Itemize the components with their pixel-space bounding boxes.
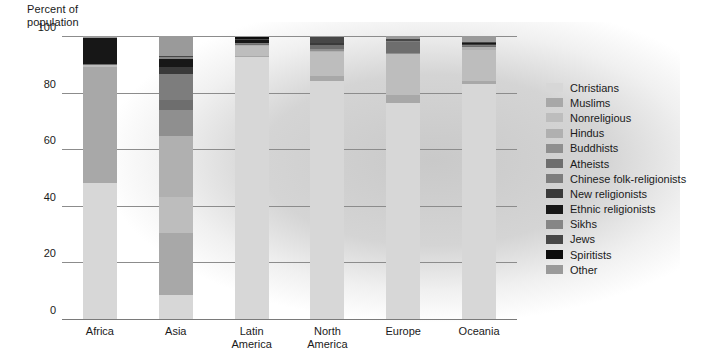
legend-label: Chinese folk-religionists bbox=[570, 173, 686, 185]
legend-item: Atheists bbox=[546, 156, 706, 171]
bar-segment bbox=[462, 50, 496, 81]
bar-latin-america bbox=[235, 36, 269, 319]
y-tick-label: 60 bbox=[26, 134, 56, 146]
bar-segment bbox=[386, 42, 420, 53]
bar-segment bbox=[159, 67, 193, 74]
legend-item: Buddhists bbox=[546, 141, 706, 156]
x-tick-label: North America bbox=[287, 325, 367, 348]
legend-item: Other bbox=[546, 262, 706, 277]
gridline bbox=[62, 319, 517, 320]
x-tick-label: Latin America bbox=[212, 325, 292, 348]
legend-swatch bbox=[546, 174, 563, 183]
legend-item: Ethnic religionists bbox=[546, 202, 706, 217]
legend-swatch bbox=[546, 189, 563, 198]
legend-swatch bbox=[546, 144, 563, 153]
legend-label: Jews bbox=[570, 233, 595, 245]
bar-segment bbox=[159, 36, 193, 56]
bar-segment bbox=[462, 84, 496, 319]
x-tick-label: Oceania bbox=[439, 325, 519, 338]
legend-swatch bbox=[546, 265, 563, 274]
bar-segment bbox=[83, 67, 117, 183]
bar-segment bbox=[386, 54, 420, 95]
bar-segment bbox=[159, 59, 193, 67]
bar-segment bbox=[310, 52, 344, 76]
x-tick-label: Asia bbox=[136, 325, 216, 338]
legend-label: Ethnic religionists bbox=[570, 203, 656, 215]
legend-swatch bbox=[546, 220, 563, 229]
legend-label: Other bbox=[570, 264, 598, 276]
legend-swatch bbox=[546, 113, 563, 122]
bar-segment bbox=[310, 81, 344, 319]
legend-label: Hindus bbox=[570, 127, 604, 139]
legend-item: Christians bbox=[546, 80, 706, 95]
legend-item: Jews bbox=[546, 232, 706, 247]
bar-segment bbox=[386, 103, 420, 319]
x-tick-label: Africa bbox=[60, 325, 140, 338]
y-tick-label: 20 bbox=[26, 247, 56, 259]
bar-asia bbox=[159, 36, 193, 319]
legend-label: Atheists bbox=[570, 158, 609, 170]
legend-label: New religionists bbox=[570, 188, 647, 200]
y-tick-label: 80 bbox=[26, 78, 56, 90]
legend-item: New religionists bbox=[546, 186, 706, 201]
legend-label: Sikhs bbox=[570, 218, 597, 230]
legend-label: Buddhists bbox=[570, 142, 618, 154]
gridline bbox=[62, 206, 517, 207]
legend-item: Chinese folk-religionists bbox=[546, 171, 706, 186]
gridline bbox=[62, 149, 517, 150]
legend-item: Muslims bbox=[546, 95, 706, 110]
bar-north-america bbox=[310, 36, 344, 319]
bar-segment bbox=[159, 295, 193, 319]
bar-oceania bbox=[462, 36, 496, 319]
y-tick-label: 0 bbox=[26, 304, 56, 316]
bar-africa bbox=[83, 36, 117, 319]
bar-segment bbox=[235, 57, 269, 319]
x-tick-label: Europe bbox=[363, 325, 443, 338]
bar-segment bbox=[159, 136, 193, 197]
legend-item: Hindus bbox=[546, 126, 706, 141]
legend-item: Spiritists bbox=[546, 247, 706, 262]
bar-segment bbox=[159, 110, 193, 137]
gridline bbox=[62, 93, 517, 94]
bar-europe bbox=[386, 36, 420, 319]
legend-swatch bbox=[546, 205, 563, 214]
legend-swatch bbox=[546, 129, 563, 138]
gridline bbox=[62, 262, 517, 263]
legend: ChristiansMuslimsNonreligiousHindusBuddh… bbox=[546, 80, 706, 277]
legend-swatch bbox=[546, 159, 563, 168]
gridline bbox=[62, 36, 517, 37]
y-tick-label: 100 bbox=[26, 21, 56, 33]
legend-label: Christians bbox=[570, 82, 619, 94]
legend-label: Spiritists bbox=[570, 249, 612, 261]
bar-segment bbox=[159, 100, 193, 110]
legend-item: Nonreligious bbox=[546, 110, 706, 125]
plot-area: AfricaAsiaLatin AmericaNorth AmericaEuro… bbox=[62, 36, 517, 319]
bar-segment bbox=[159, 74, 193, 99]
legend-label: Muslims bbox=[570, 97, 610, 109]
bar-segment bbox=[83, 183, 117, 319]
bar-segment bbox=[159, 197, 193, 232]
y-tick-label: 40 bbox=[26, 191, 56, 203]
bar-segment bbox=[83, 38, 117, 63]
legend-swatch bbox=[546, 98, 563, 107]
bar-segment bbox=[386, 95, 420, 102]
bar-segment bbox=[235, 46, 269, 56]
bar-segment bbox=[159, 233, 193, 295]
legend-label: Nonreligious bbox=[570, 112, 631, 124]
legend-swatch bbox=[546, 250, 563, 259]
legend-swatch bbox=[546, 83, 563, 92]
legend-swatch bbox=[546, 235, 563, 244]
legend-item: Sikhs bbox=[546, 217, 706, 232]
